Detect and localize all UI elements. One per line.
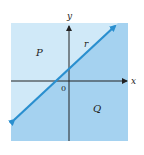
x-axis-label: x	[131, 76, 136, 86]
y-axis-label: y	[66, 11, 73, 21]
origin-label: 0	[61, 84, 66, 93]
line-r-label: r	[84, 39, 89, 49]
coordinate-plane: y x 0 P r Q	[0, 0, 144, 155]
region-p-label: P	[35, 47, 43, 58]
half-plane-diagram: y x 0 P r Q	[0, 0, 144, 155]
region-q-label: Q	[93, 103, 101, 114]
